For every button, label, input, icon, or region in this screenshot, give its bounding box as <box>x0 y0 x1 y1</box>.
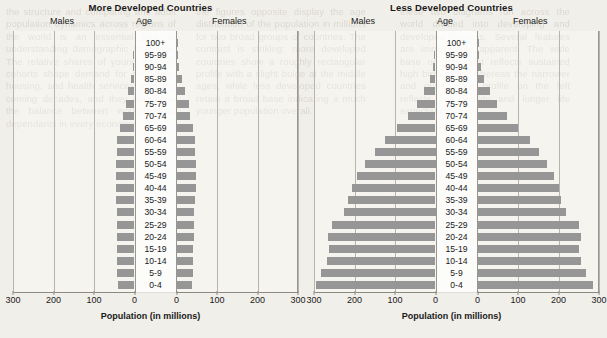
bar-female-70-74 <box>478 112 507 120</box>
plot-area-less-developed: 100+95-9990-9485-8980-8475-7970-7465-696… <box>314 31 599 293</box>
age-group-label: 90-94 <box>135 61 177 73</box>
pyramid-row: 25-29 <box>13 219 298 231</box>
bar-male-70-74 <box>408 112 436 120</box>
pyramid-row: 70-74 <box>13 110 298 122</box>
xtick-female-100-mark <box>217 291 218 295</box>
bar-male-10-14 <box>117 257 134 265</box>
xtick-male-200: 200 <box>46 295 61 305</box>
age-group-label: 35-39 <box>135 194 177 206</box>
pyramid-row: 35-39 <box>13 194 298 206</box>
pyramid-row: 60-64 <box>13 134 298 146</box>
bar-female-40-44 <box>478 184 559 192</box>
bar-female-25-29 <box>478 221 579 229</box>
gridline-female-300 <box>599 31 600 293</box>
age-group-label: 55-59 <box>135 146 177 158</box>
gridline-female-300 <box>298 31 299 293</box>
pyramid-row: 90-94 <box>13 61 298 73</box>
bar-male-65-69 <box>397 124 435 132</box>
bar-female-0-4 <box>478 281 593 289</box>
bar-male-20-24 <box>328 233 435 241</box>
bar-male-30-34 <box>344 208 435 216</box>
bar-male-15-19 <box>329 245 435 253</box>
bar-female-45-49 <box>177 172 196 180</box>
age-group-label: 75-79 <box>135 98 177 110</box>
chart-title-more-developed: More Developed Countries <box>0 2 301 13</box>
bar-male-75-79 <box>417 100 435 108</box>
bar-female-25-29 <box>177 221 194 229</box>
xtick-male-0-mark <box>435 291 436 295</box>
pyramid-row: 15-19 <box>314 243 599 255</box>
age-group-label: 100+ <box>135 37 177 49</box>
bar-female-65-69 <box>177 124 194 132</box>
bar-male-50-54 <box>116 160 135 168</box>
bar-male-5-9 <box>117 269 134 277</box>
pyramid-row: 40-44 <box>13 182 298 194</box>
bar-male-40-44 <box>352 184 435 192</box>
pyramid-row: 5-9 <box>314 267 599 279</box>
bar-male-80-84 <box>424 87 435 95</box>
age-group-label: 55-59 <box>436 146 478 158</box>
age-group-label: 65-69 <box>135 122 177 134</box>
age-group-label: 20-24 <box>436 231 478 243</box>
pyramid-row: 95-99 <box>314 49 599 61</box>
xtick-male-0: 0 <box>433 295 438 305</box>
bar-female-90-94 <box>177 63 180 71</box>
bar-male-0-4 <box>118 281 135 289</box>
bar-female-75-79 <box>478 100 497 108</box>
age-group-label: 5-9 <box>436 267 478 279</box>
xtick-female-0-mark <box>477 291 478 295</box>
column-headers-left: Males Age Females <box>0 16 301 28</box>
x-axis-ticks-left: 30020010000100200300 <box>13 295 298 307</box>
age-group-label: 95-99 <box>135 49 177 61</box>
bar-male-25-29 <box>332 221 435 229</box>
bar-female-5-9 <box>177 269 193 277</box>
bar-female-85-89 <box>177 75 183 83</box>
pyramid-row: 95-99 <box>13 49 298 61</box>
header-females-right: Females <box>513 16 548 26</box>
pyramid-row: 50-54 <box>314 158 599 170</box>
age-group-label: 25-29 <box>436 219 478 231</box>
bar-male-35-39 <box>116 196 135 204</box>
age-group-label: 50-54 <box>135 158 177 170</box>
pyramid-row: 85-89 <box>13 73 298 85</box>
bar-female-55-59 <box>177 148 196 156</box>
pyramid-row: 0-4 <box>13 279 298 291</box>
age-group-label: 95-99 <box>436 49 478 61</box>
bar-female-75-79 <box>177 100 189 108</box>
bar-female-70-74 <box>177 112 191 120</box>
x-axis-label-left: Population (in millions) <box>0 311 301 321</box>
bar-female-20-24 <box>478 233 581 241</box>
bar-female-80-84 <box>478 87 490 95</box>
xtick-male-0-mark <box>134 291 135 295</box>
xtick-female-300: 300 <box>591 295 606 305</box>
bar-male-20-24 <box>117 233 135 241</box>
age-group-label: 45-49 <box>135 170 177 182</box>
age-group-label: 25-29 <box>135 219 177 231</box>
age-group-label: 45-49 <box>436 170 478 182</box>
xtick-male-300-mark <box>314 291 315 295</box>
xtick-female-0: 0 <box>475 295 480 305</box>
pyramid-row: 75-79 <box>13 98 298 110</box>
xtick-male-100: 100 <box>387 295 402 305</box>
age-group-label: 85-89 <box>436 73 478 85</box>
age-group-label: 70-74 <box>436 110 478 122</box>
pyramid-row: 50-54 <box>13 158 298 170</box>
pyramid-row: 45-49 <box>314 170 599 182</box>
bar-male-60-64 <box>385 136 436 144</box>
age-group-label: 80-84 <box>436 85 478 97</box>
age-group-label: 30-34 <box>436 206 478 218</box>
pyramid-row: 30-34 <box>13 206 298 218</box>
age-group-label: 60-64 <box>135 134 177 146</box>
bar-male-75-79 <box>126 100 135 108</box>
bar-female-15-19 <box>177 245 193 253</box>
pyramid-row: 85-89 <box>314 73 599 85</box>
age-group-label: 90-94 <box>436 61 478 73</box>
xtick-female-300-mark <box>599 291 600 295</box>
bar-male-25-29 <box>117 221 134 229</box>
bar-female-30-34 <box>478 208 566 216</box>
pyramid-row: 15-19 <box>13 243 298 255</box>
xtick-female-200: 200 <box>551 295 566 305</box>
bar-male-45-49 <box>116 172 135 180</box>
age-group-label: 20-24 <box>135 231 177 243</box>
